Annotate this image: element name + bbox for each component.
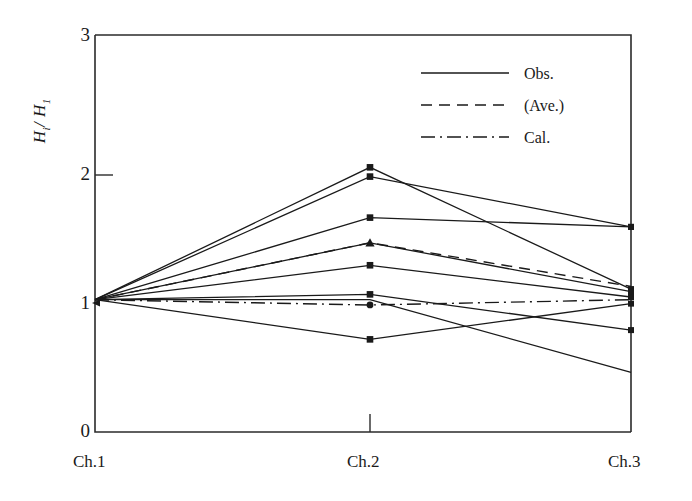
data-point-marker [367, 336, 374, 343]
data-point-marker [628, 301, 634, 307]
data-point-marker [628, 289, 634, 295]
data-point-marker [367, 262, 374, 269]
chart-figure: Hi/ H1 3 2 1 0 Ch.1 Ch.2 Ch.3 Obs. (Ave.… [0, 0, 692, 501]
axes-frame [95, 35, 631, 432]
data-point-marker [367, 164, 374, 171]
data-point-marker [367, 214, 374, 221]
series-line [95, 300, 631, 305]
series-line [95, 177, 631, 300]
legend-sample-lines [421, 73, 509, 137]
data-point-marker [367, 173, 374, 180]
series-line [95, 300, 631, 373]
series-line [95, 167, 631, 299]
data-point-marker [367, 302, 374, 309]
data-point-marker [367, 291, 374, 298]
plot-area [0, 0, 692, 501]
data-point-marker [628, 327, 634, 333]
axis-ticks [95, 175, 370, 432]
convergence-point-marker [92, 300, 100, 307]
data-point-marker [628, 224, 634, 230]
data-point-marker [628, 294, 634, 300]
data-series-group [92, 164, 634, 372]
